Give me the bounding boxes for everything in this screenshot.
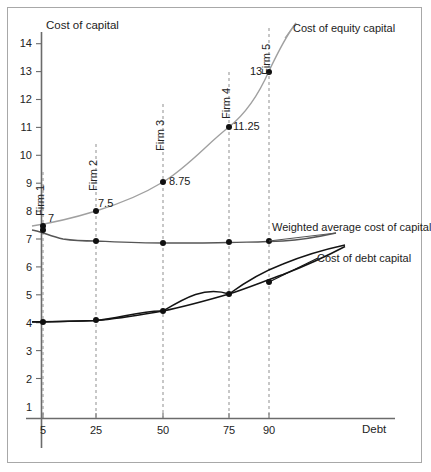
- y-tick-label-6: 6: [10, 262, 32, 273]
- data-point-equity-firm3: [160, 179, 166, 185]
- chart-plot-area: [0, 0, 431, 472]
- y-tick-label-10: 10: [10, 150, 32, 161]
- data-point-equity-firm4: [226, 124, 232, 130]
- data-point-debt-firm2: [93, 317, 99, 323]
- x-axis-title: Debt: [362, 424, 386, 436]
- firm-label-2: Firm 2: [88, 160, 99, 191]
- series-label-wacc: Weighted average cost of capital: [272, 222, 431, 233]
- series-points-cost-of-debt: [40, 279, 272, 325]
- firm-guide-lines: [43, 28, 269, 418]
- data-label-equity-firm3: 8.75: [169, 176, 190, 187]
- y-tick-label-1: 1: [10, 402, 32, 413]
- leader-line-debt: [269, 258, 318, 282]
- y-tick-label-7: 7: [10, 234, 32, 245]
- firm-label-4: Firm 4: [221, 88, 232, 119]
- data-point-debt-firm4: [226, 291, 232, 297]
- y-tick-label-5: 5: [10, 290, 32, 301]
- firm-label-1: Firm 1: [35, 185, 46, 216]
- y-tick-label-13: 13: [10, 66, 32, 77]
- series-line-cost-of-debt: [32, 245, 345, 322]
- x-tick-label-25: 25: [81, 425, 111, 436]
- data-point-wacc-firm3: [160, 240, 166, 246]
- y-tick-label-9: 9: [10, 178, 32, 189]
- x-tick-label-75: 75: [214, 425, 244, 436]
- series-label-cost-of-debt: Cost of debt capital: [317, 253, 411, 264]
- data-point-wacc-firm4: [226, 239, 232, 245]
- y-tick-label-3: 3: [10, 346, 32, 357]
- chart-figure: Cost of capital Debt 14 13 12 11 10 9 8 …: [0, 0, 431, 472]
- data-label-equity-firm4: 11.25: [233, 121, 260, 132]
- data-label-equity-firm5: 13: [250, 66, 262, 77]
- y-tick-label-2: 2: [10, 374, 32, 385]
- series-label-cost-of-equity: Cost of equity capital: [293, 23, 395, 34]
- y-tick-label-11: 11: [10, 122, 32, 133]
- firm-label-5: Firm 5: [261, 44, 272, 75]
- x-tick-label-90: 90: [254, 425, 284, 436]
- x-axis-ticks: [43, 413, 269, 419]
- data-point-wacc-firm2: [93, 238, 99, 244]
- x-tick-label-5: 5: [28, 425, 58, 436]
- y-axis-title: Cost of capital: [46, 20, 119, 32]
- y-tick-label-12: 12: [10, 94, 32, 105]
- y-tick-label-4: 4: [10, 318, 32, 329]
- data-label-equity-firm2: 7.5: [98, 198, 113, 209]
- leader-line-wacc: [269, 233, 336, 241]
- data-point-debt-firm3: [160, 308, 166, 314]
- y-tick-label-8: 8: [10, 206, 32, 217]
- data-point-wacc-firm1: [40, 227, 46, 233]
- firm-label-3: Firm 3: [155, 120, 166, 151]
- data-label-equity-firm1: 7: [48, 213, 54, 224]
- data-point-debt-firm1: [40, 319, 46, 325]
- y-tick-label-14: 14: [10, 38, 32, 49]
- x-tick-label-50: 50: [148, 425, 178, 436]
